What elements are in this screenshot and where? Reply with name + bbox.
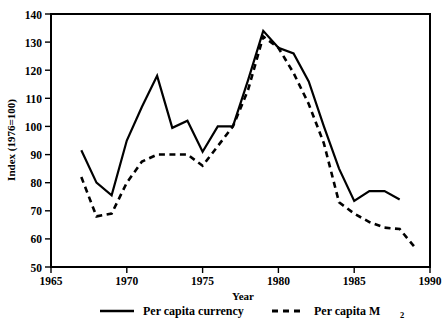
y-tick-label: 100 (25, 121, 43, 133)
y-tick-label: 140 (25, 9, 43, 21)
y-tick-label: 50 (31, 262, 43, 274)
x-tick-label: 1970 (115, 275, 138, 287)
x-tick-label: 1990 (419, 275, 442, 287)
y-tick-label: 60 (31, 233, 43, 245)
y-tick-label: 110 (25, 93, 42, 105)
legend-label-m2: Per capita M (314, 304, 380, 318)
legend-label-m2-subscript: 2 (400, 310, 404, 320)
x-tick-label: 1985 (343, 275, 366, 287)
x-tick-label: 1975 (191, 275, 214, 287)
x-tick-label: 1965 (40, 275, 63, 287)
y-axis-label: Index (1976=100) (5, 99, 18, 181)
chart-background (0, 0, 446, 321)
y-tick-label: 90 (31, 149, 43, 161)
y-tick-label: 120 (25, 65, 43, 77)
x-axis-label: Year (232, 290, 254, 302)
legend-label-currency: Per capita currency (143, 304, 244, 318)
y-tick-label: 130 (25, 37, 43, 49)
y-tick-label: 70 (31, 205, 43, 217)
x-tick-label: 1980 (267, 275, 290, 287)
chart-figure: 140 130 120 110 100 90 80 70 60 50 Index… (0, 0, 446, 321)
y-tick-label: 80 (31, 177, 43, 189)
